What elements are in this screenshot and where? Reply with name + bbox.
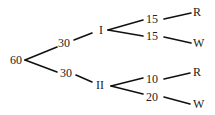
node-I: I [99,23,103,37]
tree-diagram: 60 30 30 I II 15 15 R W 10 20 R W [0,0,215,115]
node-II: II [96,78,104,92]
count-I-W: 15 [146,29,158,43]
count-I-R: 15 [146,12,158,26]
edge-II-to-R [111,78,143,86]
edge-root-to-II [25,60,57,72]
outcome-II-W: W [193,97,205,111]
count-II-W: 20 [146,90,158,104]
outcome-I-W: W [193,36,205,50]
edge-II-to-W [111,86,143,94]
edge-root-to-I [25,47,57,60]
edge-count-to-I [74,33,92,40]
count-II-R: 10 [146,72,158,86]
edge-II-R-outcome [164,73,190,79]
edge-II-W-outcome [164,97,190,104]
count-II: 30 [60,66,72,80]
root-label: 60 [10,53,22,67]
edge-I-to-R [108,20,143,30]
edge-I-to-W [108,30,143,36]
outcome-I-R: R [193,5,201,19]
outcome-II-R: R [193,65,201,79]
edge-count-to-II [76,75,92,82]
edge-I-W-outcome [164,37,191,43]
edge-I-R-outcome [164,13,191,19]
count-I: 30 [58,36,70,50]
